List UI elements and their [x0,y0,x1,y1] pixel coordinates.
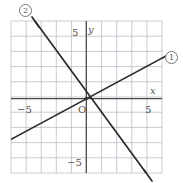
y-axis-label: y [88,25,94,35]
y-axis-tick-positive: 5 [72,28,78,38]
x-axis-tick-positive: 5 [145,105,151,115]
origin-label: O [78,105,86,115]
x-axis-label: x [150,86,156,96]
line-1-callout-badge: 1 [165,51,178,64]
line-2-callout-badge: 2 [19,4,32,17]
y-axis-tick-negative: −5 [67,158,82,168]
x-axis-tick-negative: −5 [17,105,32,115]
graph-figure: 5 y −5 O x 5 −5 2 1 [0,0,183,183]
intersection-point [85,97,88,100]
